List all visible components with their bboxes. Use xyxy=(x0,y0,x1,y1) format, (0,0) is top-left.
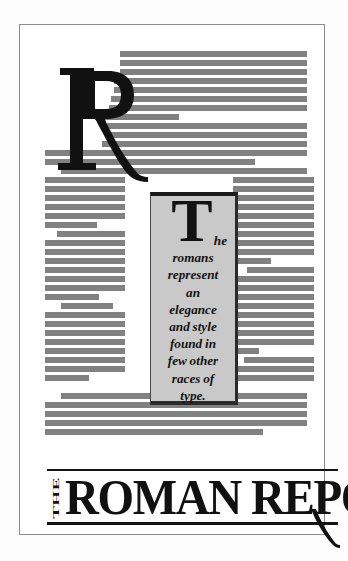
pullquote-line: races of xyxy=(153,370,233,387)
text-line-bar xyxy=(233,258,271,264)
text-line-bar xyxy=(61,168,255,174)
text-line-bar xyxy=(45,420,307,426)
text-line-bar xyxy=(120,60,307,66)
text-line-bar xyxy=(45,240,125,246)
text-line-bar xyxy=(120,69,307,75)
pullquote-line: few other xyxy=(153,352,233,369)
pullquote-line: he xyxy=(153,232,233,249)
text-line-bar xyxy=(95,114,179,120)
text-line-bar xyxy=(45,294,99,300)
text-line-bar xyxy=(45,339,125,345)
text-line-bar xyxy=(233,321,314,327)
text-line-bar xyxy=(233,312,314,318)
text-line-bar xyxy=(109,105,307,111)
specimen-page: T heromansrepresentaneleganceand stylefo… xyxy=(0,0,348,561)
text-line-bar xyxy=(120,51,307,57)
pullquote-line: type. xyxy=(153,387,233,404)
text-line-bar xyxy=(45,159,255,165)
text-line-bar xyxy=(233,204,314,210)
text-line-bar xyxy=(45,375,89,381)
text-line-bar xyxy=(233,303,314,309)
text-line-bar xyxy=(233,231,314,237)
masthead: THE ROMAN REPORT xyxy=(47,469,338,531)
text-line-bar xyxy=(45,186,125,192)
pullquote-line: found in xyxy=(153,335,233,352)
masthead-the-text: THE xyxy=(52,477,59,519)
text-line-bar xyxy=(233,177,314,183)
text-line-bar xyxy=(233,366,314,372)
text-line-bar xyxy=(233,375,314,381)
text-line-bar xyxy=(233,213,314,219)
text-line-bar xyxy=(45,348,125,354)
text-line-bar xyxy=(105,132,307,138)
pullquote-text: heromansrepresentaneleganceand stylefoun… xyxy=(153,232,233,404)
text-line-bar xyxy=(45,249,125,255)
text-line-bar xyxy=(45,267,125,273)
text-line-bar xyxy=(45,195,125,201)
text-line-bar xyxy=(111,96,307,102)
text-line-bar xyxy=(233,195,314,201)
text-line-bar xyxy=(45,411,307,417)
text-line-bar xyxy=(233,330,314,336)
text-line-bar xyxy=(57,231,125,237)
text-line-bar xyxy=(233,276,314,282)
text-line-bar xyxy=(102,141,307,147)
masthead-swash-tail-icon xyxy=(309,509,348,545)
text-line-bar xyxy=(107,123,307,129)
pullquote-line: and style xyxy=(153,318,233,335)
text-line-bar xyxy=(233,222,314,228)
pullquote-box: T heromansrepresentaneleganceand stylefo… xyxy=(150,192,238,405)
text-line-bar xyxy=(45,204,125,210)
text-line-bar xyxy=(45,276,125,282)
page-border-frame: T heromansrepresentaneleganceand stylefo… xyxy=(19,24,325,535)
text-line-bar xyxy=(45,321,125,327)
text-line-bar xyxy=(45,330,125,336)
text-line-bar xyxy=(233,186,314,192)
pullquote-line: represent xyxy=(153,266,233,283)
masthead-the-wrapper: THE xyxy=(48,475,64,521)
pullquote-line: romans xyxy=(153,249,233,266)
text-line-bar xyxy=(247,267,314,273)
text-line-bar xyxy=(233,240,314,246)
text-line-bar xyxy=(45,312,125,318)
text-line-bar xyxy=(45,150,307,156)
text-line-bar xyxy=(45,357,125,363)
text-line-bar xyxy=(45,222,97,228)
text-line-bar xyxy=(45,429,263,435)
text-line-bar xyxy=(233,168,307,174)
pullquote-line: elegance xyxy=(153,301,233,318)
text-line-bar xyxy=(233,285,314,291)
text-line-bar xyxy=(45,177,125,183)
text-line-bar xyxy=(45,213,125,219)
text-line-bar xyxy=(233,249,314,255)
text-line-bar xyxy=(233,294,314,300)
text-line-bar xyxy=(45,285,125,291)
text-line-bar xyxy=(233,339,314,345)
text-line-bar xyxy=(114,87,307,93)
pullquote-line: an xyxy=(153,284,233,301)
text-line-bar xyxy=(244,357,314,363)
text-line-bar xyxy=(45,258,125,264)
text-line-bar xyxy=(61,303,113,309)
text-line-bar xyxy=(45,366,125,372)
masthead-rule-bottom xyxy=(47,522,338,525)
pullquote-content: T heromansrepresentaneleganceand stylefo… xyxy=(151,196,235,401)
masthead-the-label: THE xyxy=(48,475,64,521)
masthead-title: ROMAN REPORT xyxy=(65,470,324,524)
text-line-bar xyxy=(114,78,307,84)
